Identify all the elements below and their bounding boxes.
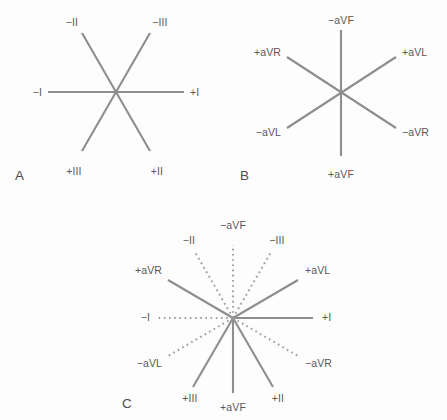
axis-lead-III-positive [193,318,233,387]
axis-label-lead-III-negative: −III [269,234,284,246]
axis-label-lead-III-positive: +III [182,392,197,404]
axis-label-lead-aVL: −aVL [256,126,281,138]
panel-letter-c: C [122,396,132,411]
axis-label-lead-aVR: −aVR [402,126,429,138]
panel-letter-b: B [240,168,249,183]
axis-label-lead-I-positive: +I [322,311,331,323]
axis-label-lead-aVF-negative: −aVF [220,219,246,231]
axis-lead-II-positive [233,318,273,387]
axis-label-lead-aVF-positive: +aVF [220,401,246,413]
axis-label-lead-I-negative: −I [141,311,150,323]
axis-label-lead-aVL-negative: −aVL [137,357,162,369]
axis-label-lead-III: −III [152,16,167,28]
axis-lead-aVL-negative [168,318,233,356]
axis-label-lead-aVR: +aVR [254,46,281,58]
axis-lead-aVR-negative [233,318,298,356]
axes-svg [0,0,447,420]
axis-label-lead-II: −II [66,16,78,28]
axis-label-lead-aVF: +aVF [328,168,354,180]
axis-lines-layer [48,30,396,393]
panel-letter-a: A [15,168,24,183]
axis-label-lead-aVF: −aVF [328,14,354,26]
axis-label-lead-II-negative: −II [183,234,195,246]
figure-canvas: −I+I−II+II−III+IIIA−aVF+aVF+aVR−aVR+aVL−… [0,0,447,420]
axis-label-lead-aVR-negative: −aVR [305,357,332,369]
axis-label-lead-II-positive: +II [272,392,284,404]
axis-label-lead-aVL-positive: +aVL [305,264,330,276]
axis-label-lead-I: −I [33,86,42,98]
axis-label-lead-I: +I [190,86,199,98]
axis-label-lead-aVL: +aVL [402,46,427,58]
axis-label-lead-II: +II [151,165,163,177]
axis-label-lead-III: +III [66,165,81,177]
axis-label-lead-aVR-positive: +aVR [135,264,162,276]
